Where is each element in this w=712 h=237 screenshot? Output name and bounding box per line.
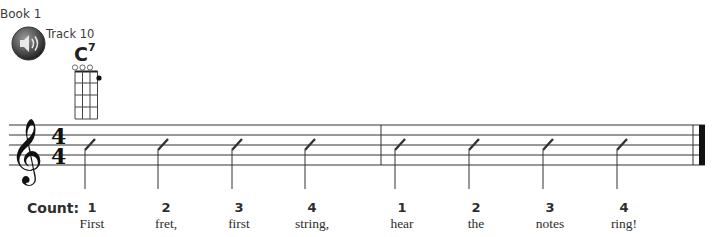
slash-note bbox=[158, 139, 168, 189]
slash-note bbox=[617, 139, 627, 189]
slash-note bbox=[305, 139, 315, 189]
time-sig-bottom: 4 bbox=[51, 143, 66, 169]
beat-number: 4 bbox=[604, 200, 644, 215]
final-barline-thick bbox=[699, 125, 705, 165]
lyric-word: fret, bbox=[131, 216, 201, 232]
treble-clef-icon: 𝄞 bbox=[10, 118, 43, 186]
slash-note bbox=[85, 139, 95, 189]
beat-number: 2 bbox=[456, 200, 496, 215]
beat-number: 1 bbox=[72, 200, 112, 215]
slash-note bbox=[469, 139, 479, 189]
beat-number: 3 bbox=[530, 200, 570, 215]
lyric-word: hear bbox=[367, 216, 437, 232]
lyric-word: the bbox=[441, 216, 511, 232]
beat-number: 1 bbox=[382, 200, 422, 215]
slash-note bbox=[395, 139, 405, 189]
slash-note bbox=[232, 139, 242, 189]
lyric-word: ring! bbox=[589, 216, 659, 232]
beat-number: 4 bbox=[292, 200, 332, 215]
beat-number: 3 bbox=[219, 200, 259, 215]
lyric-word: first bbox=[204, 216, 274, 232]
slash-note bbox=[543, 139, 553, 189]
lyric-word: First bbox=[57, 216, 127, 232]
beat-number: 2 bbox=[146, 200, 186, 215]
lyric-word: string, bbox=[277, 216, 347, 232]
lyric-word: notes bbox=[515, 216, 585, 232]
